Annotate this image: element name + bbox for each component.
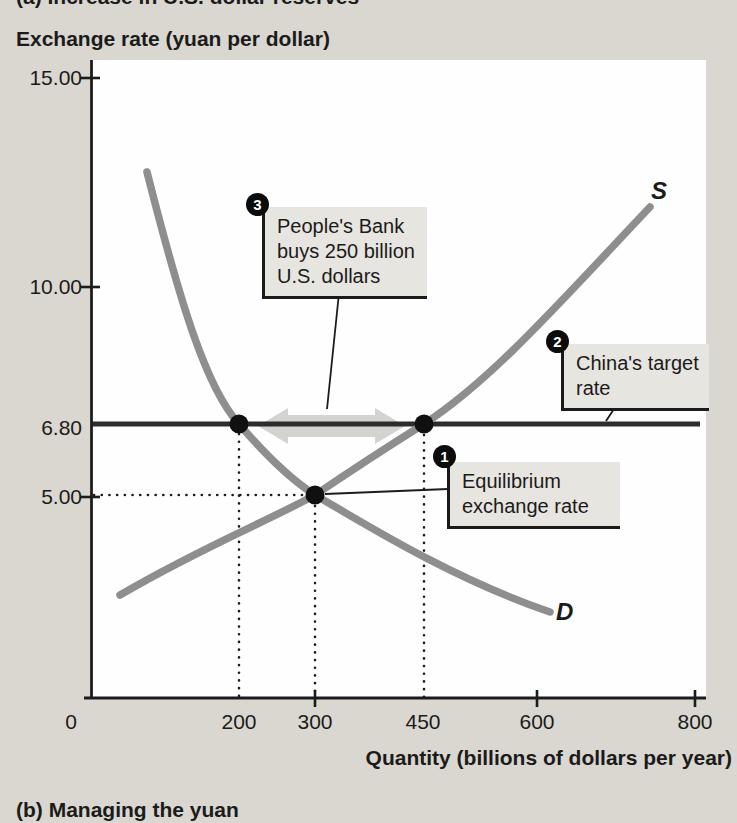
- y-tick-label-6-80: 6.80: [10, 417, 82, 439]
- y-tick-label-15: 15.00: [10, 67, 82, 89]
- pointer-equilibrium: [325, 489, 448, 494]
- point-supply-at-target: [415, 415, 434, 434]
- badge-3-number: 3: [253, 196, 261, 213]
- chart-canvas: [0, 0, 737, 823]
- badge-1: 1: [433, 445, 456, 468]
- badge-2: 2: [546, 330, 569, 353]
- point-demand-at-target: [230, 415, 249, 434]
- x-tick-label-450: 450: [388, 710, 458, 734]
- callout-intervention-line1: People's Bank: [277, 214, 419, 239]
- x-tick-label-200: 200: [204, 710, 274, 734]
- x-tick-label-300: 300: [280, 710, 350, 734]
- callout-intervention-line3: U.S. dollars: [277, 264, 419, 289]
- demand-curve-label: D: [556, 598, 573, 626]
- callout-equilibrium-line2: exchange rate: [462, 494, 612, 519]
- caption-panel-b: (b) Managing the yuan: [16, 798, 239, 822]
- callout-intervention-line2: buys 250 billion: [277, 239, 419, 264]
- figure-managing-the-yuan: (a) Increase in U.S. dollar reserves Exc…: [0, 0, 737, 823]
- callout-target-rate: China's target rate: [561, 344, 709, 411]
- point-equilibrium: [306, 486, 325, 505]
- y-tick-label-10: 10.00: [10, 276, 82, 298]
- x-tick-label-800: 800: [660, 710, 730, 734]
- callout-equilibrium-line1: Equilibrium: [462, 469, 612, 494]
- supply-curve-label: S: [651, 177, 667, 205]
- callout-target-line2: rate: [576, 376, 701, 401]
- dotted-guides: [94, 434, 424, 697]
- badge-2-number: 2: [553, 333, 561, 350]
- y-tick-label-5: 5.00: [10, 486, 82, 508]
- callout-intervention: People's Bank buys 250 billion U.S. doll…: [262, 207, 427, 299]
- badge-3: 3: [246, 193, 269, 216]
- callout-target-line1: China's target: [576, 351, 701, 376]
- x-tick-label-0: 0: [36, 710, 106, 734]
- pointer-intervention: [327, 293, 339, 409]
- x-axis-title: Quantity (billions of dollars per year): [366, 746, 732, 770]
- x-tick-label-600: 600: [502, 710, 572, 734]
- badge-1-number: 1: [440, 448, 448, 465]
- callout-equilibrium: Equilibrium exchange rate: [447, 462, 620, 529]
